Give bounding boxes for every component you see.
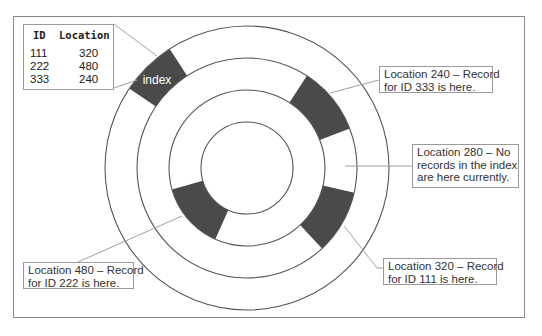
leader-loc480 [78, 216, 182, 262]
callout-line: records in the index [417, 159, 514, 172]
table-cell-id: 222 [30, 60, 49, 72]
callout-line: for ID 111 is here. [388, 273, 492, 286]
callout-line: for ID 333 is here. [384, 81, 488, 94]
table-cell-id: 333 [30, 73, 49, 85]
callout-line: are here currently. [417, 171, 514, 184]
leader-index-top [114, 24, 157, 56]
ring-inner [201, 122, 293, 214]
callout-line: Location 480 – Record [28, 264, 129, 277]
callout-line: Location 280 – No [417, 146, 514, 159]
table-cell-location: 320 [79, 47, 98, 59]
callout-location-320: Location 320 – Record for ID 111 is here… [383, 258, 497, 285]
callout-line: Location 240 – Record [384, 68, 488, 81]
callout-location-240: Location 240 – Record for ID 333 is here… [379, 66, 493, 93]
leader-loc240 [330, 80, 379, 93]
callout-location-280: Location 280 – No records in the index a… [412, 144, 519, 188]
callout-line: for ID 222 is here. [28, 277, 129, 290]
table-cell-location: 240 [79, 73, 98, 85]
callout-location-480: Location 480 – Record for ID 222 is here… [23, 262, 134, 289]
table-header-location: Location [59, 29, 110, 41]
table-cell-id: 111 [30, 47, 47, 59]
table-header-id: ID [33, 29, 46, 41]
table-cell-location: 480 [79, 60, 98, 72]
callout-line: Location 320 – Record [388, 260, 492, 273]
leader-loc320 [344, 226, 383, 268]
index-table: ID Location 111 320 222 480 333 240 [23, 24, 114, 90]
index-sector-label: index [143, 73, 172, 87]
